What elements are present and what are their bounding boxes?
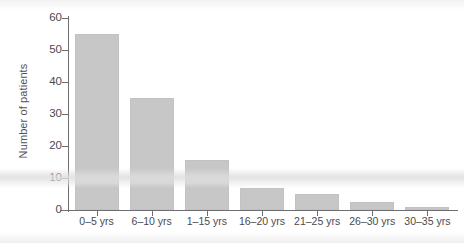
y-axis-tick-label: 10 xyxy=(18,172,62,184)
x-axis-category-label: 1–15 yrs xyxy=(179,216,234,227)
y-axis-tick xyxy=(62,178,69,179)
bar xyxy=(185,160,229,210)
y-axis-tick xyxy=(62,82,69,83)
bar xyxy=(350,202,394,210)
bar xyxy=(130,98,174,210)
y-axis-tick-label: 40 xyxy=(18,76,62,88)
y-axis-tick-label: 50 xyxy=(18,44,62,56)
y-axis-tick xyxy=(62,114,69,115)
bar xyxy=(295,194,339,210)
bar xyxy=(240,188,284,210)
y-axis-tick-label: 0 xyxy=(18,204,62,216)
y-axis-tick-label: 20 xyxy=(18,140,62,152)
x-axis-category-label: 26–30 yrs xyxy=(345,216,400,227)
x-axis-category-label: 30–35 yrs xyxy=(400,216,455,227)
bar xyxy=(75,34,119,210)
y-axis-tick xyxy=(62,18,69,19)
y-axis-tick-label: 60 xyxy=(18,12,62,24)
x-axis-category-label: 16–20 yrs xyxy=(234,216,289,227)
x-axis-category-label: 6–10 yrs xyxy=(124,216,179,227)
x-axis-category-label: 21–25 yrs xyxy=(290,216,345,227)
y-axis-tick xyxy=(62,50,69,51)
y-axis-ticks: 0102030405060 xyxy=(0,0,62,243)
y-axis-tick-label: 30 xyxy=(18,108,62,120)
x-axis-line xyxy=(60,210,458,211)
y-axis-tick xyxy=(62,210,69,211)
y-axis-tick xyxy=(62,146,69,147)
x-axis-category-label: 0–5 yrs xyxy=(69,216,124,227)
bar-chart: Number of patients 0102030405060 0–5 yrs… xyxy=(0,0,464,243)
plot-area xyxy=(69,18,455,210)
